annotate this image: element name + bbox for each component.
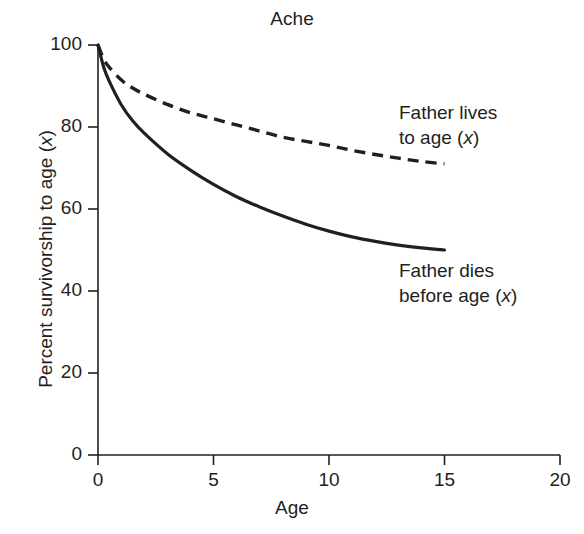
x-tick-label-0: 0: [78, 469, 118, 491]
x-tick-label-15: 15: [425, 469, 465, 491]
plot-area: [0, 0, 584, 534]
y-tick-label-20: 20: [38, 361, 82, 383]
x-tick-label-20: 20: [540, 469, 580, 491]
series-line-father-dies: [98, 45, 445, 250]
y-tick-label-80: 80: [38, 115, 82, 137]
y-tick-label-40: 40: [38, 279, 82, 301]
y-tick-label-0: 0: [38, 443, 82, 465]
chart-figure: Ache Percent survivorship to age (x) Age…: [0, 0, 584, 534]
y-axis-ticks: [88, 45, 98, 455]
x-axis-ticks: [98, 455, 560, 465]
axes: [98, 45, 560, 455]
series-line-father-lives: [98, 45, 445, 164]
x-tick-label-5: 5: [194, 469, 234, 491]
x-tick-label-10: 10: [309, 469, 349, 491]
y-tick-label-100: 100: [38, 33, 82, 55]
y-tick-label-60: 60: [38, 197, 82, 219]
